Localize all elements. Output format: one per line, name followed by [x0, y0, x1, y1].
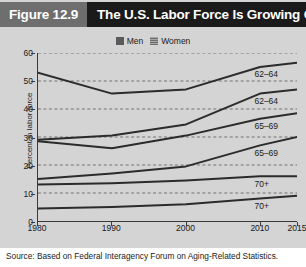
y-tick-mark-30: [31, 138, 35, 139]
x-tick-mark-2010: [260, 222, 261, 226]
figure-number: Figure 12.9: [0, 2, 87, 27]
series-label: 65–69: [254, 149, 278, 158]
series-label: 65–69: [254, 122, 278, 131]
figure-header: Figure 12.9 The U.S. Labor Force Is Grow…: [0, 2, 306, 27]
legend-label-men: Men: [127, 37, 144, 46]
legend-label-women: Women: [161, 37, 190, 46]
y-tick-mark-60: [31, 53, 35, 54]
y-tick-10: 10: [11, 190, 33, 199]
y-tick-20: 20: [11, 161, 33, 170]
y-tick-30: 30: [11, 133, 33, 142]
y-tick-mark-40: [31, 109, 35, 110]
y-tick-mark-50: [31, 81, 35, 82]
legend-item-men: Men: [116, 37, 144, 46]
series-label: 62–64: [254, 70, 278, 79]
series-line: [38, 137, 297, 179]
x-tick-mark-2015: [297, 222, 298, 226]
source-note: Source: Based on Federal Interagency For…: [6, 251, 278, 261]
series-label: 70+: [254, 202, 268, 211]
y-tick-40: 40: [11, 105, 33, 114]
y-tick-50: 50: [11, 77, 33, 86]
figure-title: The U.S. Labor Force Is Growing Older: [87, 2, 306, 27]
men-swatch-icon: [116, 37, 124, 45]
x-tick-mark-1990: [111, 222, 112, 226]
series-label: 70+: [254, 180, 268, 189]
figure-container: Figure 12.9 The U.S. Labor Force Is Grow…: [0, 0, 306, 267]
plot-wrapper: Percent in labor force 0102030405060 198…: [0, 48, 306, 244]
series-label: 62–64: [254, 97, 278, 106]
women-swatch-icon: [150, 37, 158, 45]
x-tick-mark-2000: [186, 222, 187, 226]
legend-item-women: Women: [150, 37, 190, 46]
x-tick-mark-1980: [37, 222, 38, 226]
chart-legend: Men Women: [0, 37, 306, 46]
y-axis-ticks: 0102030405060: [0, 48, 33, 244]
y-tick-mark-10: [31, 194, 35, 195]
y-tick-60: 60: [11, 49, 33, 58]
y-tick-mark-20: [31, 166, 35, 167]
